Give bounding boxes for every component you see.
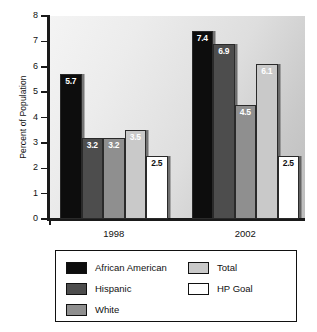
legend-label: HP Goal <box>217 283 253 294</box>
legend-label: African American <box>95 262 167 273</box>
bar-value-label: 5.7 <box>61 77 81 86</box>
bar: 2.5 <box>146 156 168 219</box>
y-axis-tick-label: 0 <box>24 214 38 223</box>
y-axis-tick <box>41 193 47 195</box>
bar-value-label: 6.1 <box>257 67 277 76</box>
y-axis-tick-label: 3 <box>24 138 38 147</box>
legend-column-right: TotalHP Goal <box>188 258 253 300</box>
bar-value-label: 2.5 <box>147 159 167 168</box>
legend-swatch <box>66 262 87 274</box>
legend-swatch <box>188 283 209 295</box>
legend-item: Total <box>188 258 253 277</box>
legend-column-left: African AmericanHispanicWhite <box>66 258 167 321</box>
legend-swatch <box>66 283 87 295</box>
legend-item: White <box>66 300 167 319</box>
y-axis-tick <box>41 218 47 220</box>
y-axis-tick <box>41 15 47 17</box>
bar-value-label: 3.5 <box>126 133 146 142</box>
legend-item: Hispanic <box>66 279 167 298</box>
bar: 4.5 <box>235 105 257 219</box>
bar: 7.4 <box>192 31 214 219</box>
x-axis-label: 1998 <box>84 228 144 239</box>
y-axis-tick-label: 7 <box>24 36 38 45</box>
legend-item: African American <box>66 258 167 277</box>
legend-swatch <box>66 304 87 316</box>
legend-item: HP Goal <box>188 279 253 298</box>
bar: 6.9 <box>213 44 235 219</box>
y-axis-tick <box>41 117 47 119</box>
bar-value-label: 4.5 <box>236 108 256 117</box>
y-axis-tick-label: 1 <box>24 189 38 198</box>
y-axis-tick <box>41 168 47 170</box>
legend-swatch <box>188 262 209 274</box>
y-axis-tick <box>41 142 47 144</box>
bar-value-label: 3.2 <box>83 141 103 150</box>
bar: 2.5 <box>278 156 300 219</box>
y-axis-tick <box>41 66 47 68</box>
bar: 3.2 <box>82 138 104 219</box>
bar: 3.5 <box>125 130 147 219</box>
bar-value-label: 2.5 <box>279 159 299 168</box>
legend-label: White <box>95 304 119 315</box>
bar: 6.1 <box>256 64 278 219</box>
y-axis-tick-label: 5 <box>24 87 38 96</box>
y-axis-tick-label: 2 <box>24 163 38 172</box>
legend-label: Total <box>217 262 237 273</box>
bar: 3.2 <box>103 138 125 219</box>
bar: 5.7 <box>60 74 82 219</box>
bar-value-label: 6.9 <box>214 47 234 56</box>
y-axis-tick <box>41 41 47 43</box>
x-axis-label: 2002 <box>215 228 275 239</box>
legend-label: Hispanic <box>95 283 131 294</box>
chart-legend: African AmericanHispanicWhite TotalHP Go… <box>55 250 297 322</box>
y-axis-line <box>47 15 50 220</box>
bar-value-label: 3.2 <box>104 141 124 150</box>
x-axis-tick <box>49 220 51 225</box>
y-axis-tick-label: 4 <box>24 113 38 122</box>
y-axis-tick-label: 8 <box>24 11 38 20</box>
y-axis-tick <box>41 91 47 93</box>
bar-value-label: 7.4 <box>193 34 213 43</box>
y-axis-tick-label: 6 <box>24 62 38 71</box>
bar-chart: Percent of Population 876543210 5.73.23.… <box>0 0 317 332</box>
